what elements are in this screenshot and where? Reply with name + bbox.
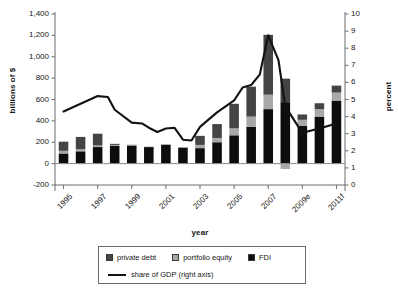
legend-item-fdi[interactable]: FDI bbox=[248, 253, 271, 262]
right-axis-tick-label: 2 bbox=[351, 146, 373, 155]
legend-label-fdi: FDI bbox=[259, 253, 271, 262]
right-axis-tick-label: 8 bbox=[351, 43, 373, 52]
private-debt-swatch-icon bbox=[106, 254, 113, 261]
bar-segment bbox=[76, 137, 86, 149]
bar-segment bbox=[212, 124, 222, 138]
bar-segment bbox=[59, 153, 69, 163]
bar-segment bbox=[315, 109, 325, 116]
bar-segment bbox=[246, 87, 256, 117]
bar-segment bbox=[332, 86, 342, 93]
share-of-gdp-line bbox=[64, 35, 337, 140]
bar-segment bbox=[229, 135, 239, 163]
bar-segment bbox=[178, 148, 188, 164]
bar-segment bbox=[298, 114, 308, 119]
right-axis-tick-label: 3 bbox=[351, 129, 373, 138]
bar-segment bbox=[59, 142, 69, 151]
legend-label-private-debt: private debt bbox=[117, 253, 156, 262]
legend-item-portfolio-equity[interactable]: portfolio equity bbox=[172, 253, 232, 262]
bar-segment bbox=[315, 117, 325, 164]
bar-segment bbox=[332, 101, 342, 164]
bar-segment bbox=[195, 136, 205, 145]
bar-segment bbox=[76, 149, 86, 151]
right-axis-tick-label: 10 bbox=[351, 9, 373, 18]
bar-segment bbox=[144, 147, 154, 148]
left-axis-tick-label: 1,400 bbox=[15, 9, 49, 18]
bar-segment bbox=[212, 142, 222, 163]
legend-label-share-of-gdp: share of GDP (right axis) bbox=[131, 270, 213, 279]
bar-segment bbox=[195, 145, 205, 148]
right-axis-tick-label: 7 bbox=[351, 60, 373, 69]
bar-segment bbox=[127, 145, 137, 146]
bar-segment bbox=[298, 120, 308, 126]
axes-layer bbox=[52, 12, 349, 191]
left-axis-tick-label: 600 bbox=[15, 95, 49, 104]
right-axis-tick-label: 6 bbox=[351, 77, 373, 86]
bar-segment bbox=[195, 148, 205, 164]
right-axis-tick-label: 4 bbox=[351, 112, 373, 121]
bar-segment bbox=[127, 145, 137, 163]
right-axis-tick-label: 0 bbox=[351, 180, 373, 189]
bar-segment bbox=[263, 109, 273, 164]
bars-layer bbox=[59, 35, 341, 169]
chart-figure: billions of $ percent year -200020040060… bbox=[0, 0, 398, 291]
left-axis-tick-label: 400 bbox=[15, 116, 49, 125]
bar-segment bbox=[144, 147, 154, 164]
bar-segment bbox=[110, 146, 120, 164]
bar-segment bbox=[212, 138, 222, 142]
bar-segment bbox=[281, 164, 291, 169]
bar-segment bbox=[110, 144, 120, 145]
legend-label-portfolio-equity: portfolio equity bbox=[183, 253, 232, 262]
gdp-share-line bbox=[64, 35, 337, 140]
legend-item-share-of-gdp[interactable]: share of GDP (right axis) bbox=[108, 270, 213, 279]
legend-row-line: share of GDP (right axis) bbox=[99, 266, 305, 283]
left-axis-tick-label: -200 bbox=[15, 180, 49, 189]
portfolio-equity-swatch-icon bbox=[172, 254, 179, 261]
bar-segment bbox=[178, 147, 188, 148]
bar-segment bbox=[229, 104, 239, 129]
bar-segment bbox=[93, 145, 103, 147]
legend-item-private-debt[interactable]: private debt bbox=[106, 253, 156, 262]
right-axis-tick-label: 9 bbox=[351, 26, 373, 35]
right-axis-tick-label: 1 bbox=[351, 163, 373, 172]
right-axis-tick-label: 5 bbox=[351, 95, 373, 104]
bar-segment bbox=[93, 147, 103, 164]
bar-segment bbox=[332, 93, 342, 101]
bar-segment bbox=[246, 127, 256, 164]
bar-segment bbox=[161, 144, 171, 145]
left-axis-tick-label: 800 bbox=[15, 73, 49, 82]
bar-segment bbox=[229, 128, 239, 135]
fdi-swatch-icon bbox=[248, 254, 255, 261]
left-axis-tick-label: 0 bbox=[15, 159, 49, 168]
bar-segment bbox=[59, 151, 69, 154]
bar-segment bbox=[161, 145, 171, 164]
bar-segment bbox=[263, 95, 273, 109]
legend-row-series: private debt portfolio equity FDI bbox=[99, 249, 305, 266]
bar-segment bbox=[110, 145, 120, 146]
chart-legend: private debt portfolio equity FDI share … bbox=[98, 246, 306, 284]
bar-segment bbox=[93, 134, 103, 146]
left-axis-tick-label: 1,000 bbox=[15, 52, 49, 61]
left-axis-tick-label: 1,200 bbox=[15, 30, 49, 39]
line-swatch-icon bbox=[108, 274, 126, 276]
bar-segment bbox=[315, 103, 325, 109]
bar-segment bbox=[76, 151, 86, 163]
bar-segment bbox=[246, 117, 256, 127]
left-axis-tick-label: 200 bbox=[15, 137, 49, 146]
